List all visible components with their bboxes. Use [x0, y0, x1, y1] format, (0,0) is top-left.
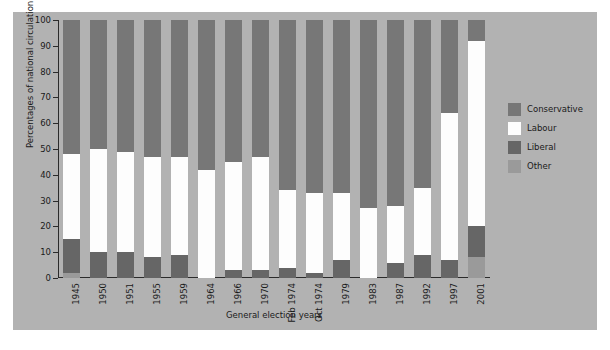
y-tick-label: 90 [40, 42, 51, 51]
bar-segment-conservative [171, 20, 188, 157]
bar-segment-conservative [144, 20, 161, 157]
legend-label: Liberal [527, 143, 556, 152]
legend-swatch-icon [508, 141, 521, 154]
legend-swatch-icon [508, 160, 521, 173]
y-tick-label: 100 [35, 16, 51, 25]
bar-1979 [333, 20, 350, 278]
x-tick-label: 2001 [477, 283, 486, 305]
bar-segment-conservative [333, 20, 350, 193]
bar-1955 [144, 20, 161, 278]
bar-segment-labour [387, 206, 404, 263]
bar-1987 [387, 20, 404, 278]
bar-series-layer [58, 20, 490, 278]
bar-1964 [198, 20, 215, 278]
bar-segment-liberal [441, 260, 458, 278]
legend-item-liberal[interactable]: Liberal [508, 138, 594, 157]
legend-label: Labour [527, 124, 556, 133]
y-tick-label: 0 [46, 274, 51, 283]
y-tick-label: 50 [40, 145, 51, 154]
bar-1950 [90, 20, 107, 278]
bar-segment-conservative [117, 20, 134, 152]
bar-segment-labour [279, 190, 296, 267]
bar-segment-liberal [306, 273, 323, 278]
x-axis-title: General election years [58, 311, 490, 320]
bar-segment-conservative [198, 20, 215, 170]
bar-segment-labour [90, 149, 107, 252]
bar-segment-liberal [225, 270, 242, 278]
y-tick-label: 80 [40, 67, 51, 76]
y-tick-mark [53, 278, 58, 279]
x-tick-label: 1945 [72, 283, 81, 305]
bar-segment-conservative [306, 20, 323, 193]
bar-segment-liberal [468, 226, 485, 257]
x-tick-label: 1955 [153, 283, 162, 305]
bar-segment-labour [306, 193, 323, 273]
x-tick-label: 1983 [369, 283, 378, 305]
bar-segment-labour [468, 41, 485, 227]
bar-segment-labour [171, 157, 188, 255]
legend-item-conservative[interactable]: Conservative [508, 100, 594, 119]
x-tick-label: 1951 [126, 283, 135, 305]
bar-1992 [414, 20, 431, 278]
bar-segment-liberal [414, 255, 431, 278]
bar-segment-liberal [333, 260, 350, 278]
y-tick-label: 30 [40, 196, 51, 205]
bar-1951 [117, 20, 134, 278]
y-tick-label: 10 [40, 248, 51, 257]
bar-segment-conservative [414, 20, 431, 188]
bar-segment-labour [198, 170, 215, 278]
bar-segment-conservative [360, 20, 377, 208]
x-tick-label: 1966 [234, 283, 243, 305]
y-tick-label: 20 [40, 222, 51, 231]
bar-1970 [252, 20, 269, 278]
x-tick-label: 1979 [342, 283, 351, 305]
bar-segment-liberal [90, 252, 107, 278]
bar-segment-conservative [63, 20, 80, 154]
bar-segment-labour [144, 157, 161, 258]
bar-segment-liberal [387, 263, 404, 278]
bar-segment-conservative [441, 20, 458, 113]
bar-segment-other [63, 273, 80, 278]
x-tick-label: 1950 [99, 283, 108, 305]
bar-segment-conservative [387, 20, 404, 206]
x-tick-label: 1959 [180, 283, 189, 305]
x-tick-label: 1964 [207, 283, 216, 305]
bar-1945 [63, 20, 80, 278]
x-tick-label: 1997 [450, 283, 459, 305]
legend-item-other[interactable]: Other [508, 157, 594, 176]
chart-legend: ConservativeLabourLiberalOther [508, 100, 594, 176]
bar-segment-labour [117, 152, 134, 253]
bar-segment-conservative [90, 20, 107, 149]
bar-segment-labour [333, 193, 350, 260]
bar-oct-1974 [306, 20, 323, 278]
bar-segment-liberal [252, 270, 269, 278]
x-tick-label: 1970 [261, 283, 270, 305]
legend-swatch-icon [508, 103, 521, 116]
bar-segment-liberal [171, 255, 188, 278]
legend-label: Conservative [527, 105, 583, 114]
bar-segment-labour [63, 154, 80, 239]
x-tick-label: 1987 [396, 283, 405, 305]
bar-segment-liberal [144, 257, 161, 278]
bar-segment-other [468, 257, 485, 278]
y-tick-label: 40 [40, 171, 51, 180]
bar-segment-liberal [279, 268, 296, 278]
legend-item-labour[interactable]: Labour [508, 119, 594, 138]
bar-1959 [171, 20, 188, 278]
x-tick-label: 1992 [423, 283, 432, 305]
bar-1966 [225, 20, 242, 278]
bar-1997 [441, 20, 458, 278]
bar-segment-conservative [279, 20, 296, 190]
y-tick-label: 60 [40, 119, 51, 128]
y-axis-title: Percentages of national circulation [26, 1, 35, 148]
bar-segment-labour [360, 208, 377, 278]
legend-label: Other [527, 162, 551, 171]
bar-segment-conservative [225, 20, 242, 162]
bar-feb-1974 [279, 20, 296, 278]
y-tick-label: 70 [40, 93, 51, 102]
bar-segment-labour [225, 162, 242, 270]
bar-segment-labour [414, 188, 431, 255]
bar-2001 [468, 20, 485, 278]
chart-figure: Percentages of national circulation 0102… [0, 0, 610, 350]
plot-area: 0102030405060708090100 19451950195119551… [58, 20, 490, 278]
